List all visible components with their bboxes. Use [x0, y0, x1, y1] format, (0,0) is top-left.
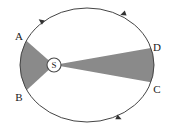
- point-label-d: D: [153, 41, 161, 53]
- orbit-direction-arrow-top-right: [120, 11, 126, 16]
- point-label-b: B: [15, 91, 22, 103]
- sun-focus-label: S: [51, 60, 56, 70]
- point-label-a: A: [15, 30, 23, 42]
- orbit-diagram: S A B C D: [0, 0, 174, 131]
- orbit-direction-arrow-top-left: [39, 19, 45, 24]
- orbit-svg-canvas: S A B C D: [0, 0, 174, 131]
- sector-d-s-c: [54, 48, 154, 82]
- point-label-c: C: [153, 83, 160, 95]
